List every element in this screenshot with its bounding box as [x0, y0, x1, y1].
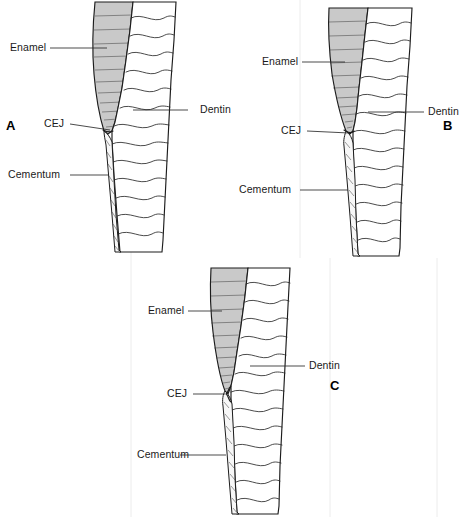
panel-c-tooth [180, 268, 305, 514]
panel-a-cementum-label: Cementum [8, 169, 60, 180]
panel-b-cej-label: CEJ [281, 125, 301, 136]
panel-a-dentin-label: Dentin [200, 104, 231, 115]
dental-cej-figure: Enamel Dentin CEJ Cementum A Enamel Dent… [0, 0, 471, 517]
panel-b-dentin-label: Dentin [428, 106, 459, 117]
panel-letter-a: A [6, 118, 15, 133]
panel-c-cementum-label: Cementum [137, 449, 189, 460]
panel-b-enamel-label: Enamel [262, 56, 298, 67]
panel-b-cej-leader [307, 131, 349, 133]
panel-a-cej-label: CEJ [44, 118, 64, 129]
figure-canvas [0, 0, 471, 517]
panel-b-tooth [300, 8, 424, 256]
panel-c-dentin-label: Dentin [309, 360, 340, 371]
panel-a-enamel-label: Enamel [10, 42, 46, 53]
panel-c-cej-label: CEJ [167, 388, 187, 399]
panel-letter-c: C [330, 378, 339, 393]
panel-a-tooth [50, 2, 188, 252]
panel-letter-b: B [443, 118, 452, 133]
panel-c-enamel-label: Enamel [148, 305, 184, 316]
panel-b-cementum-label: Cementum [239, 184, 291, 195]
